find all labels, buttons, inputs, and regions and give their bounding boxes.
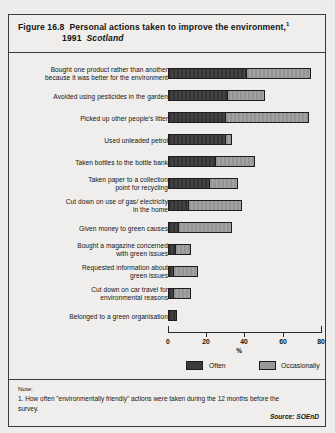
stacked-bar (168, 112, 309, 123)
source-credit: Source: SOEnD (270, 413, 319, 420)
title-footnote-marker: 1 (286, 21, 289, 27)
bar-segment-occasionally (215, 157, 254, 166)
bar-category-label: Avoided using pesticides in the garden (18, 93, 168, 101)
stacked-bar (168, 266, 198, 277)
label-line: Picked up other people's litter (80, 115, 168, 122)
bar-segment-occasionally (173, 267, 197, 276)
bar-category-label: Picked up other people's litter (18, 115, 168, 123)
x-axis-tick (244, 333, 245, 337)
bar-category-label: Given money to green causes (18, 225, 168, 233)
bar-segment-often (169, 311, 176, 320)
stacked-bar (168, 90, 265, 101)
legend-swatch-occasionally (259, 361, 276, 370)
bar-row: Given money to green causes (0, 220, 335, 242)
label-line: Taken paper to a collection (88, 176, 168, 183)
x-axis-unit-label: % (236, 347, 242, 354)
legend-label-often: Often (209, 361, 226, 371)
stacked-bar (168, 310, 177, 321)
legend-label-occasionally: Occasionally (281, 361, 320, 371)
x-axis-right-cap (321, 326, 322, 333)
figure-16-8: Figure 16.8 Personal actions taken to im… (0, 0, 335, 433)
x-axis-tick (206, 333, 207, 337)
label-line: Taken bottles to the bottle bank (75, 159, 168, 166)
bar-category-label: Bought one product rather than another b… (18, 66, 168, 82)
bar-segment-occasionally (188, 201, 241, 210)
bar-segment-occasionally (173, 289, 190, 298)
x-axis-left-cap (168, 326, 169, 333)
x-axis-tick-label: 40 (240, 338, 248, 345)
x-axis-tick-label: 0 (166, 338, 170, 345)
x-axis-tick-label: 60 (279, 338, 287, 345)
bar-row: Picked up other people's litter (0, 110, 335, 132)
x-axis-tick (283, 333, 284, 337)
label-line: Requested information about (82, 264, 168, 271)
label-line: Cut down on use of gas/ electricity (66, 198, 168, 205)
bar-segment-often (169, 135, 225, 144)
bar-category-label: Cut down on car travel for environmental… (18, 286, 168, 302)
chart-legend: Often Occasionally (186, 360, 326, 372)
x-axis-line (168, 332, 322, 333)
figure-title: Figure 16.8 Personal actions taken to im… (18, 19, 318, 45)
bar-row: Cut down on car travel for environmental… (0, 286, 335, 308)
label-line: Cut down on car travel for (91, 286, 168, 293)
bar-category-label: Bought a magazine concerned with green i… (18, 242, 168, 258)
label-line: green issues (130, 272, 168, 279)
bar-row: Cut down on use of gas/ electricity in t… (0, 198, 335, 220)
bar-row: Bought a magazine concerned with green i… (0, 242, 335, 264)
label-line: Belonged to a green organisation (69, 313, 168, 320)
x-axis-tick-label: 80 (317, 338, 325, 345)
label-line: with green issues (116, 250, 168, 257)
figure-subtitle-year: 1991 (62, 33, 82, 43)
bar-category-label: Taken bottles to the bottle bank (18, 159, 168, 167)
bar-segment-occasionally (227, 91, 264, 100)
bar-segment-often (169, 69, 246, 78)
label-line: environmental reasons (100, 294, 168, 301)
note-text: 1. How often "environmentally friendly" … (18, 394, 298, 413)
bar-segment-occasionally (175, 245, 190, 254)
figure-number: Figure 16.8 (18, 22, 64, 32)
bar-segment-often (169, 113, 225, 122)
stacked-bar (168, 244, 191, 255)
label-line: Used unleaded petrol (104, 137, 168, 144)
bar-category-label: Used unleaded petrol (18, 137, 168, 145)
bar-row: Used unleaded petrol (0, 132, 335, 154)
bar-rows: Bought one product rather than another b… (0, 66, 335, 332)
bar-segment-occasionally (246, 69, 310, 78)
x-axis-tick-label: 20 (202, 338, 210, 345)
bar-row: Avoided using pesticides in the garden (0, 88, 335, 110)
stacked-bar (168, 288, 191, 299)
bar-segment-occasionally (225, 135, 231, 144)
label-line: Given money to green causes (79, 225, 168, 232)
bar-segment-often (169, 201, 188, 210)
note-heading: Note: (18, 385, 33, 392)
label-line: because it was better for the environmen… (45, 74, 168, 81)
bar-segment-often (169, 91, 227, 100)
bar-segment-often (169, 223, 178, 232)
bar-row: Bought one product rather than another b… (0, 66, 335, 88)
label-line: Avoided using pesticides in the garden (53, 93, 168, 100)
stacked-bar (168, 222, 232, 233)
figure-title-text: Personal actions taken to improve the en… (69, 22, 286, 32)
bar-category-label: Cut down on use of gas/ electricity in t… (18, 198, 168, 214)
stacked-bar (168, 178, 238, 189)
label-line: Bought one product rather than another (51, 66, 168, 73)
label-line: Bought a magazine concerned (77, 242, 168, 249)
bar-segment-occasionally (209, 179, 237, 188)
bar-row: Requested information about green issues (0, 264, 335, 286)
bar-category-label: Taken paper to a collection point for re… (18, 176, 168, 192)
bar-segment-occasionally (178, 223, 231, 232)
stacked-bar (168, 200, 242, 211)
bar-row: Taken paper to a collection point for re… (0, 176, 335, 198)
figure-subtitle-region: Scotland (87, 33, 124, 43)
bar-row: Taken bottles to the bottle bank (0, 154, 335, 176)
legend-swatch-often (186, 361, 203, 370)
bar-segment-often (169, 157, 215, 166)
bar-category-label: Requested information about green issues (18, 264, 168, 280)
stacked-bar (168, 156, 255, 167)
bar-category-label: Belonged to a green organisation (18, 313, 168, 321)
bar-segment-often (169, 179, 209, 188)
label-line: point for recycling (115, 184, 168, 191)
stacked-bar (168, 68, 311, 79)
label-line: in the home (133, 206, 168, 213)
bar-segment-occasionally (225, 113, 308, 122)
